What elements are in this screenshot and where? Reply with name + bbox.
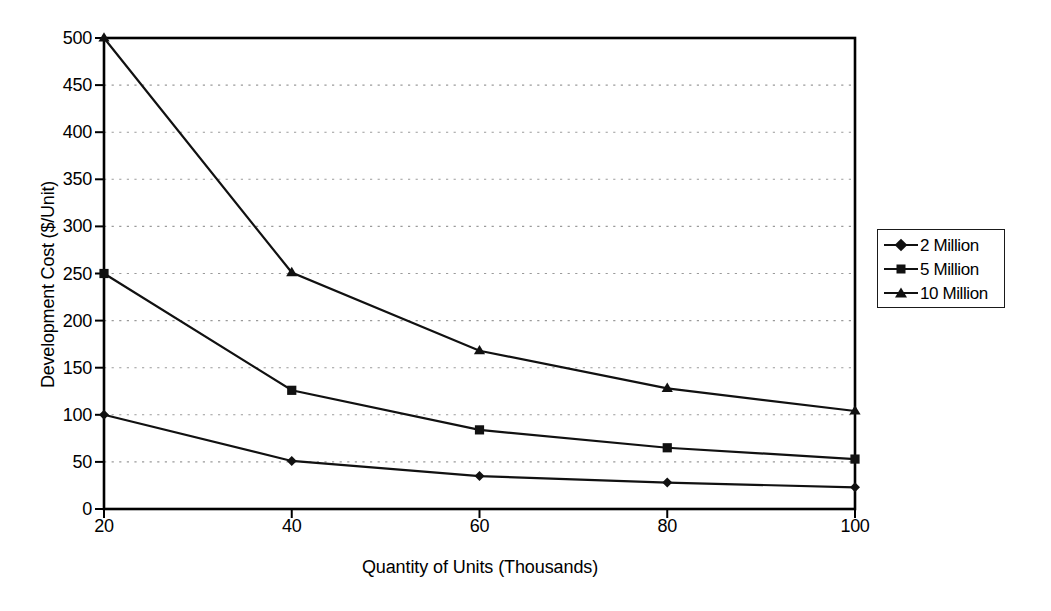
y-tick-label-text: 300 [32,217,92,235]
data-point-diamond [99,410,109,420]
y-tick-label: 300 [30,217,92,235]
y-tick-label-text: 250 [32,265,92,283]
chart-legend: 2 Million5 Million10 Million [877,229,1005,308]
y-tick-label-text: 500 [32,29,92,47]
chart-figure: Development Cost ($/Unit) 05010015020025… [0,0,1051,611]
data-point-diamond [662,478,672,488]
x-tick-label-text: 20 [94,516,113,536]
x-tick-label-text: 80 [658,516,677,536]
x-tick-label: 20 [69,516,139,536]
y-tick-label-text: 450 [32,76,92,94]
legend-marker-triangle-icon [884,285,918,301]
y-tick-label-text: 50 [32,453,92,471]
series-line [104,38,855,411]
y-tick-label-text: 100 [32,406,92,424]
x-tick-label-text: 40 [282,516,301,536]
y-tick-label: 350 [30,170,92,188]
triangle-icon [895,288,907,298]
y-tick-label: 50 [30,453,92,471]
data-point-diamond [287,456,297,466]
x-tick-label: 60 [445,516,515,536]
y-tick-label: 150 [30,359,92,377]
legend-item-triangle[interactable]: 10 Million [878,281,1004,305]
y-tick-label: 450 [30,76,92,94]
diamond-icon [895,239,908,252]
x-tick-label: 40 [257,516,327,536]
data-point-square [99,269,108,278]
data-point-square [663,443,672,452]
y-tick-label: 400 [30,123,92,141]
y-tick-label: 250 [30,265,92,283]
legend-marker-square-icon [884,261,918,277]
data-point-square [475,425,484,434]
y-tick-label: 100 [30,406,92,424]
legend-item-square[interactable]: 5 Million [878,257,1004,281]
x-tick-label: 100 [820,516,890,536]
data-point-square [287,386,296,395]
y-tick-label: 200 [30,312,92,330]
legend-item-label: 10 Million [920,285,988,302]
legend-item-diamond[interactable]: 2 Million [878,233,1004,257]
x-axis-title: Quantity of Units (Thousands) [104,557,856,578]
square-icon [897,265,906,274]
plot-frame [104,38,855,509]
y-tick-label-text: 400 [32,123,92,141]
x-tick-label: 80 [632,516,702,536]
y-tick-label-text: 200 [32,312,92,330]
legend-marker-diamond-icon [884,237,918,253]
data-point-diamond [475,471,485,481]
x-tick-label-text: 100 [840,516,869,536]
x-tick-label-text: 60 [470,516,489,536]
y-tick-label-text: 150 [32,359,92,377]
data-point-diamond [850,482,860,492]
y-tick-label-text: 350 [32,170,92,188]
legend-item-label: 5 Million [920,261,979,278]
y-tick-label: 500 [30,29,92,47]
data-point-square [850,454,859,463]
legend-item-label: 2 Million [920,237,979,254]
